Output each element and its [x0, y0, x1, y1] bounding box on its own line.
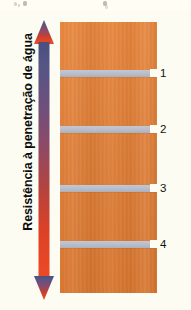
resistance-gradient-arrow	[33, 20, 55, 300]
joint-callout-1: 1	[160, 68, 176, 79]
mortar-joint-3	[60, 185, 157, 192]
joint-callout-2: 2	[160, 124, 176, 135]
callout-notch-1	[150, 69, 159, 77]
mortar-joint-2	[60, 126, 157, 133]
joint-callout-3: 3	[160, 183, 176, 194]
mortar-joint-4	[60, 241, 157, 248]
callout-notch-2	[150, 125, 159, 133]
joint-callout-4: 4	[160, 239, 176, 250]
callout-notch-3	[150, 184, 159, 192]
masonry-wall-section	[60, 22, 157, 293]
scan-fleck	[18, 4, 20, 7]
callout-notch-4	[150, 240, 159, 248]
scan-fleck	[105, 5, 108, 9]
scan-fleck	[23, 1, 27, 6]
scan-fleck	[13, 2, 17, 7]
mortar-joint-1	[60, 70, 157, 77]
water-penetration-resistance-figure: Resistência à penetração de água	[0, 0, 191, 310]
